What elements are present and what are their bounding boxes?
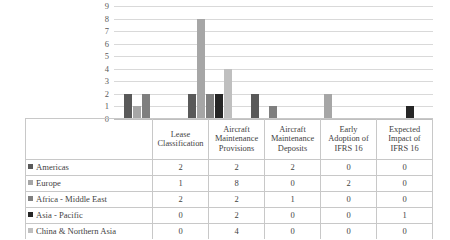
table-row: Americas22200 xyxy=(26,160,433,176)
table-cell-value: 8 xyxy=(209,176,265,192)
y-tick-label: 4 xyxy=(105,65,109,74)
table-header-row: LeaseClassificationAircraftMaintenancePr… xyxy=(26,119,433,160)
table-cell-value: 1 xyxy=(265,192,321,208)
y-tick-label: 5 xyxy=(105,52,109,61)
table-cell-value: 0 xyxy=(321,208,377,224)
legend-row-americas: Americas xyxy=(26,160,153,176)
legend-label: Africa - Middle East xyxy=(36,194,107,204)
bar xyxy=(251,94,259,119)
table-cell-value: 0 xyxy=(321,192,377,208)
table-cell-value: 1 xyxy=(377,208,433,224)
y-tick-label: 2 xyxy=(105,90,109,99)
bar xyxy=(206,94,214,119)
bar xyxy=(124,94,132,119)
legend-swatch-icon xyxy=(28,164,33,169)
legend-row-china-northern-asia: China & Northern Asia xyxy=(26,224,153,240)
category-header: LeaseClassification xyxy=(153,119,209,160)
category-header: EarlyAdoption ofIFRS 16 xyxy=(321,119,377,160)
data-table-wrap: LeaseClassificationAircraftMaintenancePr… xyxy=(25,118,433,239)
legend-label: Americas xyxy=(36,162,69,172)
table-cell-value: 2 xyxy=(209,160,265,176)
table-cell-value: 0 xyxy=(265,208,321,224)
table-cell-value: 4 xyxy=(209,224,265,240)
bar-groups xyxy=(114,6,433,119)
legend-swatch-icon xyxy=(28,228,33,233)
table-row: Asia - Pacific02001 xyxy=(26,208,433,224)
legend-swatch-icon xyxy=(28,196,33,201)
legend-label: China & Northern Asia xyxy=(36,226,116,236)
table-cell-value: 2 xyxy=(209,208,265,224)
bar xyxy=(197,19,205,119)
chart-root: 9876543210 LeaseClassificationAircraftMa… xyxy=(0,0,450,239)
legend-row-africa-middle-east: Africa - Middle East xyxy=(26,192,153,208)
legend-header-cell xyxy=(26,119,153,160)
bar xyxy=(188,94,196,119)
table-cell-value: 0 xyxy=(377,224,433,240)
y-tick-label: 1 xyxy=(105,102,109,111)
y-tick-label: 6 xyxy=(105,39,109,48)
table-cell-value: 2 xyxy=(321,176,377,192)
table-cell-value: 0 xyxy=(377,192,433,208)
bar xyxy=(142,94,150,119)
bar-group xyxy=(178,6,242,119)
bar xyxy=(324,94,332,119)
table-cell-value: 0 xyxy=(153,224,209,240)
bar-group xyxy=(114,6,178,119)
plot-area xyxy=(114,6,433,119)
table-row: Europe18020 xyxy=(26,176,433,192)
data-table: LeaseClassificationAircraftMaintenancePr… xyxy=(25,118,433,239)
bar-group xyxy=(305,6,369,119)
table-row: Africa - Middle East22100 xyxy=(26,192,433,208)
table-cell-value: 1 xyxy=(153,176,209,192)
y-axis: 9876543210 xyxy=(96,6,112,119)
category-header: AircraftMaintenanceProvisions xyxy=(209,119,265,160)
y-tick-label: 9 xyxy=(105,2,109,11)
legend-row-asia-pacific: Asia - Pacific xyxy=(26,208,153,224)
table-cell-value: 0 xyxy=(321,224,377,240)
category-header: ExpectedImpact ofIFRS 16 xyxy=(377,119,433,160)
category-header: AircraftMaintenanceDeposits xyxy=(265,119,321,160)
bar xyxy=(224,69,232,119)
y-tick-label: 7 xyxy=(105,27,109,36)
table-cell-value: 0 xyxy=(265,176,321,192)
table-cell-value: 0 xyxy=(377,176,433,192)
bar-chart: 9876543210 xyxy=(96,6,433,119)
table-cell-value: 0 xyxy=(265,224,321,240)
y-tick-label: 3 xyxy=(105,77,109,86)
table-cell-value: 0 xyxy=(377,160,433,176)
legend-swatch-icon xyxy=(28,180,33,185)
table-cell-value: 2 xyxy=(265,160,321,176)
table-cell-value: 0 xyxy=(321,160,377,176)
legend-label: Europe xyxy=(36,178,61,188)
table-cell-value: 2 xyxy=(209,192,265,208)
bar-group xyxy=(369,6,433,119)
table-cell-value: 0 xyxy=(153,208,209,224)
table-row: China & Northern Asia04000 xyxy=(26,224,433,240)
bar-group xyxy=(242,6,306,119)
y-tick-label: 8 xyxy=(105,14,109,23)
legend-row-europe: Europe xyxy=(26,176,153,192)
table-cell-value: 2 xyxy=(153,192,209,208)
bar xyxy=(215,94,223,119)
legend-swatch-icon xyxy=(28,212,33,217)
legend-label: Asia - Pacific xyxy=(36,210,83,220)
table-cell-value: 2 xyxy=(153,160,209,176)
